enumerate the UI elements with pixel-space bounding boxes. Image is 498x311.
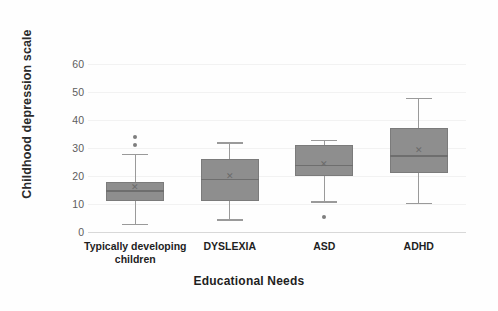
box-plot-asd[interactable]: ✕: [295, 50, 353, 232]
y-tick-label-40: 40: [54, 114, 84, 126]
upper-whisker-line: [135, 154, 136, 182]
lower-whisker-line: [229, 201, 230, 219]
box-plot-dyslexia[interactable]: ✕: [201, 50, 259, 232]
y-tick-label-0: 0: [54, 226, 84, 238]
boxplot-figure: Childhood depression scale 0102030405060…: [0, 0, 498, 311]
y-tick-label-30: 30: [54, 142, 84, 154]
outlier-point-1[interactable]: [133, 135, 137, 139]
category-label-3: ADHD: [359, 240, 479, 253]
upper-whisker-line: [418, 98, 419, 129]
plot-area: ✕✕✕✕: [88, 50, 466, 232]
lower-whisker-cap: [311, 201, 337, 203]
lower-whisker-cap: [122, 224, 148, 226]
y-axis-title: Childhood depression scale: [20, 14, 42, 214]
mean-marker-icon: ✕: [414, 146, 423, 155]
lower-whisker-cap: [406, 203, 432, 205]
mean-marker-icon: ✕: [225, 172, 234, 181]
mean-marker-icon: ✕: [320, 160, 329, 169]
x-axis-line: [88, 232, 466, 233]
upper-whisker-cap: [406, 98, 432, 100]
upper-whisker-line: [229, 142, 230, 159]
y-axis-tick-labels: 0102030405060: [52, 50, 84, 232]
lower-whisker-line: [418, 173, 419, 202]
box-plot-typically-developing-children[interactable]: ✕: [106, 50, 164, 232]
lower-whisker-cap: [217, 219, 243, 221]
outlier-point-0[interactable]: [133, 143, 137, 147]
y-tick-label-50: 50: [54, 86, 84, 98]
upper-whisker-cap: [122, 154, 148, 156]
y-tick-label-10: 10: [54, 198, 84, 210]
box-plot-adhd[interactable]: ✕: [390, 50, 448, 232]
upper-whisker-cap: [217, 142, 243, 144]
y-tick-label-20: 20: [54, 170, 84, 182]
outlier-point-0[interactable]: [322, 215, 326, 219]
mean-marker-icon: ✕: [131, 183, 140, 192]
upper-whisker-cap: [311, 140, 337, 142]
y-tick-label-60: 60: [54, 58, 84, 70]
lower-whisker-line: [135, 201, 136, 223]
lower-whisker-line: [324, 176, 325, 201]
x-axis-title: Educational Needs: [0, 274, 498, 288]
